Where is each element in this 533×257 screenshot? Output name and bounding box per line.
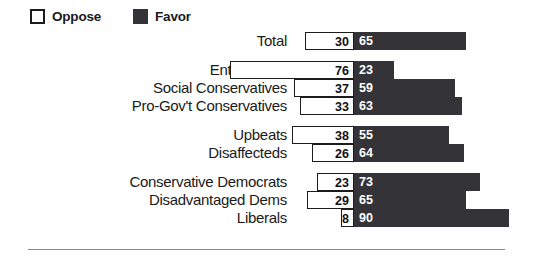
bar-value-oppose: 26: [335, 145, 349, 163]
chart-legend: Oppose Favor: [30, 9, 191, 24]
bar-oppose: 33: [300, 97, 354, 115]
chart-row: Disaffecteds6426: [0, 144, 533, 162]
bottom-divider: [28, 249, 505, 250]
row-label: Disaffecteds: [0, 144, 290, 162]
row-bars: 5937: [290, 79, 533, 97]
bar-value-favor: 55: [359, 126, 373, 144]
chart-row: Pro-Gov't Conservatives6333: [0, 97, 533, 115]
bar-value-oppose: 38: [335, 127, 349, 145]
democrats-group: Conservative Democrats7323Disadvantaged …: [0, 173, 533, 227]
row-bars: 6426: [290, 144, 533, 162]
chart-row: Social Conservatives5937: [0, 79, 533, 97]
row-label: Disadvantaged Dems: [0, 191, 290, 209]
row-bars: 6333: [290, 97, 533, 115]
bar-oppose: 26: [312, 144, 354, 162]
chart-row: Total6530: [0, 32, 533, 50]
chart-row: Enterprisers2376: [0, 61, 533, 79]
bar-value-oppose: 76: [335, 62, 349, 80]
middle-group: Upbeats5538Disaffecteds6426: [0, 126, 533, 162]
bar-oppose: 38: [292, 126, 354, 144]
bar-value-oppose: 33: [335, 98, 349, 116]
bar-oppose: 23: [317, 173, 354, 191]
bar-favor: 64: [354, 144, 464, 162]
bar-favor: 65: [354, 191, 466, 209]
bar-value-oppose: 8: [342, 210, 349, 228]
bar-favor: 63: [354, 97, 462, 115]
bar-value-favor: 65: [359, 32, 373, 50]
bar-oppose: 76: [230, 61, 354, 79]
legend-label-favor: Favor: [155, 10, 191, 24]
bar-value-favor: 23: [359, 61, 373, 79]
bar-value-oppose: 30: [335, 33, 349, 51]
oppose-swatch-icon: [30, 9, 45, 24]
row-bars: 2376: [290, 61, 533, 79]
bar-favor: 65: [354, 32, 466, 50]
bar-value-oppose: 37: [335, 80, 349, 98]
favor-swatch-icon: [133, 9, 148, 24]
row-bars: 908: [290, 209, 533, 227]
row-label: Upbeats: [0, 126, 290, 144]
row-label: Social Conservatives: [0, 79, 290, 97]
row-bars: 7323: [290, 173, 533, 191]
conservatives-group: Enterprisers2376Social Conservatives5937…: [0, 61, 533, 115]
bar-value-favor: 65: [359, 191, 373, 209]
bar-oppose: 37: [294, 79, 354, 97]
chart-row: Conservative Democrats7323: [0, 173, 533, 191]
bar-value-favor: 64: [359, 144, 373, 162]
bar-value-favor: 73: [359, 173, 373, 191]
total-group: Total6530: [0, 32, 533, 50]
row-bars: 6530: [290, 32, 533, 50]
legend-item-oppose: Oppose: [30, 9, 101, 24]
bar-value-favor: 90: [359, 209, 373, 227]
bar-favor: 55: [354, 126, 449, 144]
bar-value-favor: 63: [359, 97, 373, 115]
bar-value-oppose: 29: [335, 192, 349, 210]
row-label: Pro-Gov't Conservatives: [0, 97, 290, 115]
bar-favor: 90: [354, 209, 509, 227]
legend-item-favor: Favor: [133, 9, 191, 24]
row-label: Conservative Democrats: [0, 173, 290, 191]
row-label: Total: [0, 32, 290, 50]
chart-row: Disadvantaged Dems6529: [0, 191, 533, 209]
chart-row: Liberals908: [0, 209, 533, 227]
row-bars: 6529: [290, 191, 533, 209]
bar-favor: 59: [354, 79, 455, 97]
bar-value-oppose: 23: [335, 174, 349, 192]
row-label: Liberals: [0, 209, 290, 227]
bar-value-favor: 59: [359, 79, 373, 97]
legend-label-oppose: Oppose: [52, 10, 101, 24]
bar-oppose: 30: [305, 32, 354, 50]
bar-oppose: 29: [307, 191, 354, 209]
diverging-bar-chart: Total6530Enterprisers2376Social Conserva…: [0, 32, 533, 227]
bar-favor: 23: [354, 61, 394, 79]
chart-row: Upbeats5538: [0, 126, 533, 144]
row-bars: 5538: [290, 126, 533, 144]
bar-favor: 73: [354, 173, 480, 191]
bar-oppose: 8: [341, 209, 354, 227]
